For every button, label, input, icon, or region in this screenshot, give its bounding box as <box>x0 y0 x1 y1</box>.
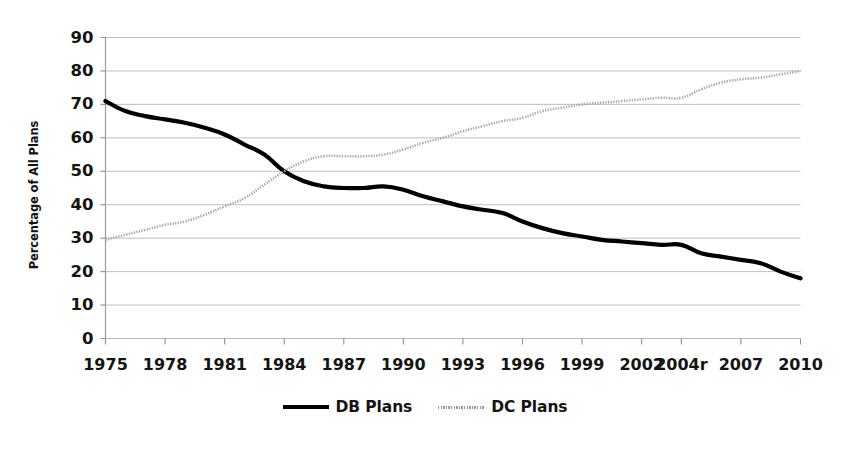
y-axis-ticks <box>101 38 106 339</box>
x-tick-label: 2004r <box>655 357 707 373</box>
x-tick-label: 2010 <box>778 357 823 373</box>
x-tick-label: 1999 <box>560 357 605 373</box>
legend-label-db-plans: DB Plans <box>336 398 413 416</box>
x-tick-label: 1981 <box>202 357 247 373</box>
gridlines <box>106 38 801 339</box>
series-line-dc-plans <box>106 71 801 240</box>
x-tick-label: 1990 <box>381 357 426 373</box>
legend-item-db-plans: DB Plans <box>283 398 413 416</box>
y-tick-label: 90 <box>48 30 94 47</box>
y-tick-label: 10 <box>48 297 94 314</box>
y-tick-label: 70 <box>48 96 94 113</box>
y-tick-label: 20 <box>48 264 94 281</box>
db-plans-line-swatch-icon <box>283 405 329 409</box>
y-tick-label: 50 <box>48 163 94 180</box>
plot-area <box>0 0 850 454</box>
legend-label-dc-plans: DC Plans <box>491 398 567 416</box>
y-tick-label: 60 <box>48 130 94 147</box>
y-tick-label: 30 <box>48 230 94 247</box>
x-tick-label: 1993 <box>441 357 486 373</box>
x-tick-label: 1987 <box>322 357 367 373</box>
y-tick-label: 40 <box>48 197 94 214</box>
data-series-layer <box>106 71 801 278</box>
x-axis-ticks <box>106 339 801 345</box>
y-axis-title: Percentage of All Plans <box>27 95 41 295</box>
line-chart: Percentage of All Plans 9080706050403020… <box>0 0 850 454</box>
x-tick-label: 2007 <box>719 357 764 373</box>
y-tick-label: 80 <box>48 63 94 80</box>
x-tick-label: 1975 <box>83 357 128 373</box>
legend-item-dc-plans: DC Plans <box>438 398 567 416</box>
y-tick-label: 0 <box>48 331 94 348</box>
x-tick-label: 1996 <box>500 357 545 373</box>
dc-plans-line-swatch-icon <box>438 406 484 409</box>
series-line-db-plans <box>106 101 801 278</box>
chart-legend: DB Plans DC Plans <box>0 398 850 416</box>
x-tick-label: 1984 <box>262 357 307 373</box>
x-tick-label: 1978 <box>143 357 188 373</box>
chart-screenshot: Percentage of All Plans 9080706050403020… <box>0 0 850 454</box>
